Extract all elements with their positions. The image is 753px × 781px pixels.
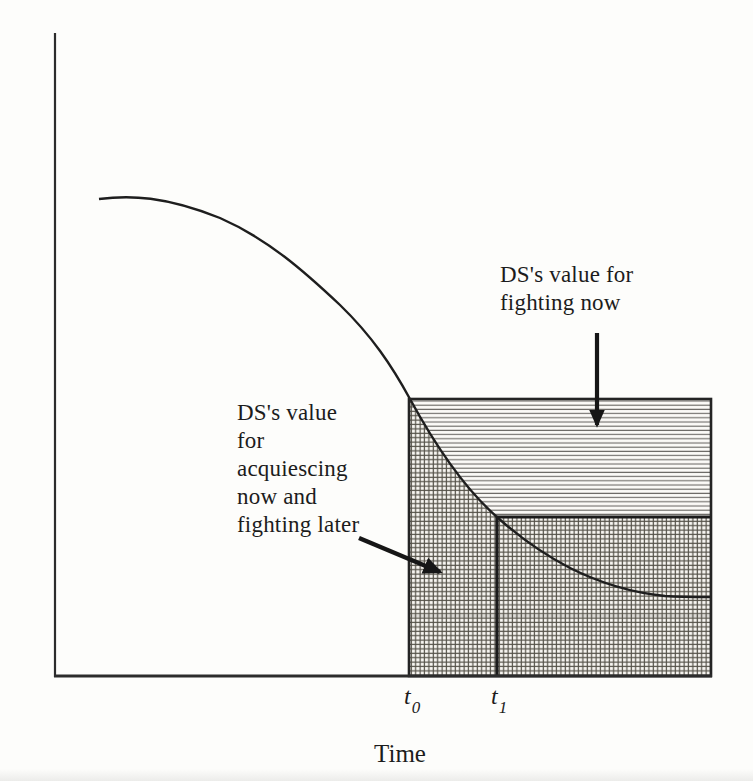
label-acquiescing: DS's value for acquiescing now and fight… [237, 399, 359, 539]
tick-t1-sub: 1 [499, 698, 508, 717]
tick-t1-base: t [491, 683, 498, 709]
label-fighting-now: DS's value for fighting now [500, 261, 633, 317]
figure-canvas [0, 0, 753, 781]
tick-t0: t0 [404, 683, 419, 710]
tick-t1: t1 [491, 683, 506, 710]
tick-t0-base: t [404, 683, 411, 709]
x-axis-label: Time [330, 740, 470, 768]
figure-page: DS's value for fighting now DS's value f… [0, 0, 753, 781]
tick-t0-sub: 0 [412, 698, 421, 717]
